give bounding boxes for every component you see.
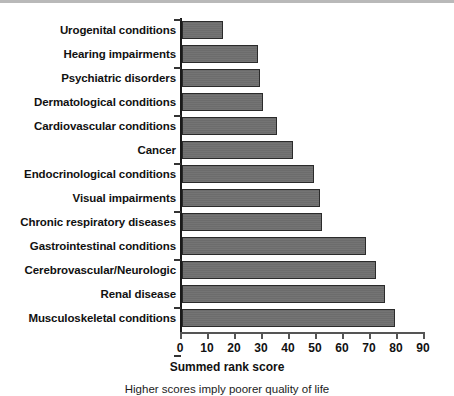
x-axis-tick	[234, 332, 236, 339]
top-divider-rule	[0, 0, 454, 3]
bar-wrapper	[182, 261, 376, 279]
bar-row: Gastrointestinal conditions	[0, 234, 454, 258]
category-label: Cerebrovascular/Neurologic	[0, 258, 176, 282]
bar	[182, 117, 277, 135]
x-axis-tick	[315, 332, 317, 339]
category-label: Cardiovascular conditions	[0, 114, 176, 138]
y-axis-tick	[174, 355, 181, 357]
category-label: Cancer	[0, 138, 176, 162]
x-axis-tick	[207, 332, 209, 339]
bar	[182, 213, 322, 231]
bar-row: Visual impairments	[0, 186, 454, 210]
bar	[182, 189, 320, 207]
bar-wrapper	[182, 45, 258, 63]
category-label: Renal disease	[0, 282, 176, 306]
bar	[182, 21, 223, 39]
x-axis-line	[180, 332, 423, 334]
bar	[182, 69, 260, 87]
bar-wrapper	[182, 285, 385, 303]
x-axis-tick	[369, 332, 371, 339]
bar	[182, 45, 258, 63]
category-label: Visual impairments	[0, 186, 176, 210]
bar	[182, 165, 314, 183]
category-label: Musculoskeletal conditions	[0, 306, 176, 330]
bar-row: Psychiatric disorders	[0, 66, 454, 90]
bar-row: Cerebrovascular/Neurologic	[0, 258, 454, 282]
bar-wrapper	[182, 69, 260, 87]
y-axis-tick	[174, 19, 181, 21]
bar-wrapper	[182, 213, 322, 231]
category-label: Urogenital conditions	[0, 18, 176, 42]
bar-wrapper	[182, 93, 263, 111]
figure-container: Urogenital conditionsHearing impairments…	[0, 0, 454, 396]
bar-row: Dermatological conditions	[0, 90, 454, 114]
bar-row: Cancer	[0, 138, 454, 162]
bar-wrapper	[182, 237, 366, 255]
category-label: Chronic respiratory diseases	[0, 210, 176, 234]
x-axis-tick	[396, 332, 398, 339]
x-axis-tick	[180, 332, 182, 339]
category-label: Psychiatric disorders	[0, 66, 176, 90]
x-axis-title: Summed rank score	[0, 360, 454, 374]
bar	[182, 309, 395, 327]
bar	[182, 285, 385, 303]
bar-row: Chronic respiratory diseases	[0, 210, 454, 234]
bar-row: Musculoskeletal conditions	[0, 306, 454, 330]
category-label: Endocrinological conditions	[0, 162, 176, 186]
bar	[182, 141, 293, 159]
x-axis-tick	[261, 332, 263, 339]
category-label: Dermatological conditions	[0, 90, 176, 114]
bar-wrapper	[182, 165, 314, 183]
plot-area: Urogenital conditionsHearing impairments…	[0, 10, 454, 335]
bar-row: Cardiovascular conditions	[0, 114, 454, 138]
bar	[182, 237, 366, 255]
bar-wrapper	[182, 189, 320, 207]
chart-caption: Higher scores imply poorer quality of li…	[0, 383, 454, 395]
category-label: Gastrointestinal conditions	[0, 234, 176, 258]
bar-row: Renal disease	[0, 282, 454, 306]
bar-wrapper	[182, 309, 395, 327]
bar-row: Hearing impairments	[0, 42, 454, 66]
x-axis-tick	[342, 332, 344, 339]
bar	[182, 93, 263, 111]
bar-wrapper	[182, 21, 223, 39]
bar	[182, 261, 376, 279]
bar-row: Endocrinological conditions	[0, 162, 454, 186]
x-axis-tick	[288, 332, 290, 339]
category-label: Hearing impairments	[0, 42, 176, 66]
bar-wrapper	[182, 117, 277, 135]
x-axis-tick	[423, 332, 425, 339]
x-axis-tick-label: 90	[406, 341, 440, 355]
bar-wrapper	[182, 141, 293, 159]
bar-row: Urogenital conditions	[0, 18, 454, 42]
